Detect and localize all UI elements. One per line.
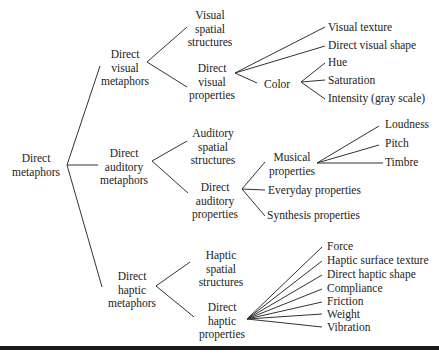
- node-text: spatial: [199, 263, 244, 277]
- node-direct-visual-shape: Direct visual shape: [328, 39, 416, 53]
- node-direct-visual-properties: Direct visual properties: [189, 62, 235, 103]
- node-musical-properties: Musical properties: [269, 151, 315, 178]
- node-haptic-spatial-structures: Haptic spatial structures: [199, 249, 244, 290]
- node-text: Musical: [269, 151, 315, 165]
- node-text: auditory: [192, 195, 238, 209]
- node-text: structures: [191, 154, 236, 168]
- node-text: Visual: [188, 9, 233, 23]
- node-text: visual: [189, 76, 235, 90]
- node-auditory-spatial-structures: Auditory spatial structures: [191, 127, 236, 168]
- node-text: auditory: [100, 161, 148, 175]
- node-intensity: Intensity (gray scale): [328, 92, 425, 106]
- node-text: Auditory: [191, 127, 236, 141]
- node-text: Direct: [100, 147, 148, 161]
- node-text: properties: [269, 165, 315, 179]
- node-everyday-properties: Everyday properties: [268, 184, 361, 198]
- node-direct-auditory-properties: Direct auditory properties: [192, 181, 238, 222]
- node-text: visual: [101, 62, 149, 76]
- node-text: structures: [188, 36, 233, 50]
- node-vibration: Vibration: [327, 321, 370, 335]
- node-text: Direct: [12, 152, 60, 166]
- node-text: Direct: [108, 270, 156, 284]
- node-text: metaphors: [108, 297, 156, 311]
- node-direct-auditory-metaphors: Direct auditory metaphors: [100, 147, 148, 188]
- bottom-rule: [0, 346, 439, 350]
- node-direct-metaphors: Direct metaphors: [12, 152, 60, 179]
- node-force: Force: [327, 240, 353, 254]
- node-timbre: Timbre: [385, 156, 418, 170]
- node-direct-visual-metaphors: Direct visual metaphors: [101, 48, 149, 89]
- node-text: properties: [199, 328, 245, 342]
- node-text: spatial: [188, 23, 233, 37]
- node-visual-texture: Visual texture: [328, 21, 392, 35]
- node-direct-haptic-shape: Direct haptic shape: [327, 268, 416, 282]
- node-hue: Hue: [328, 56, 347, 70]
- node-direct-haptic-metaphors: Direct haptic metaphors: [108, 270, 156, 311]
- node-visual-spatial-structures: Visual spatial structures: [188, 9, 233, 50]
- node-text: properties: [192, 208, 238, 222]
- node-friction: Friction: [327, 295, 363, 309]
- node-text: Direct: [199, 301, 245, 315]
- node-pitch: Pitch: [385, 137, 409, 151]
- node-compliance: Compliance: [327, 282, 383, 296]
- node-direct-haptic-properties: Direct haptic properties: [199, 301, 245, 342]
- node-text: Haptic: [199, 249, 244, 263]
- node-text: metaphors: [100, 174, 148, 188]
- node-text: haptic: [199, 315, 245, 329]
- node-saturation: Saturation: [328, 74, 375, 88]
- node-text: spatial: [191, 141, 236, 155]
- node-text: metaphors: [12, 166, 60, 180]
- node-color: Color: [264, 78, 290, 92]
- node-text: Direct: [101, 48, 149, 62]
- node-text: structures: [199, 276, 244, 290]
- node-loudness: Loudness: [385, 118, 429, 132]
- node-weight: Weight: [327, 308, 360, 322]
- node-haptic-surface-texture: Haptic surface texture: [327, 254, 429, 268]
- node-text: haptic: [108, 284, 156, 298]
- node-synthesis-properties: Synthesis properties: [267, 209, 360, 223]
- node-text: Direct: [192, 181, 238, 195]
- node-text: properties: [189, 89, 235, 103]
- node-text: Direct: [189, 62, 235, 76]
- node-text: metaphors: [101, 75, 149, 89]
